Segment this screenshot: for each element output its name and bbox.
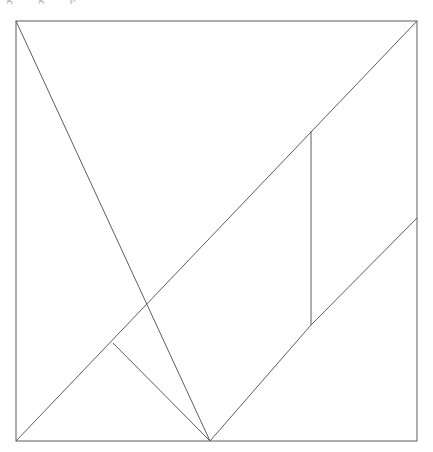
diagonal-to-right-edge bbox=[311, 218, 417, 325]
anti-diagonal-bl-to-tr bbox=[16, 21, 417, 441]
diamond-lower-edges bbox=[113, 325, 311, 441]
main-diagonal-tl-to-bottom-mid bbox=[16, 21, 210, 441]
page-canvas: g g p bbox=[0, 0, 433, 452]
tangram-figure bbox=[0, 0, 433, 452]
